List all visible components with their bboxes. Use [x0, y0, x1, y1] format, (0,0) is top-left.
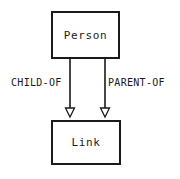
node-person[interactable]: Person	[51, 11, 120, 59]
edge-label-child-of: CHILD-OF	[11, 78, 62, 88]
arrowhead-icon-parent-of	[101, 108, 110, 117]
edge-label-parent-of: PARENT-OF	[108, 78, 165, 88]
node-link-label: Link	[72, 137, 101, 148]
node-person-label: Person	[64, 30, 107, 41]
arrowhead-icon-child-of	[66, 108, 75, 117]
diagram-canvas: Person Link CHILD-OF PARENT-OF	[0, 0, 180, 179]
edge-child-of[interactable]	[66, 59, 75, 117]
edge-parent-of[interactable]	[101, 59, 110, 117]
node-link[interactable]: Link	[51, 120, 121, 165]
